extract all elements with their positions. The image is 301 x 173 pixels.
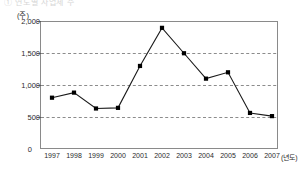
x-tick-label-2004: 2004 bbox=[198, 152, 214, 159]
x-tick-label-1998: 1998 bbox=[66, 152, 82, 159]
data-point-2006 bbox=[248, 111, 252, 115]
x-tick-label-2001: 2001 bbox=[132, 152, 148, 159]
data-point-1999 bbox=[94, 106, 98, 110]
x-tick-label-2003: 2003 bbox=[176, 152, 192, 159]
chart-figure: ① 연도별 사업체 수 (주) 2,000 1,500 1,000 500 0 … bbox=[0, 0, 301, 173]
data-point-1998 bbox=[72, 91, 76, 95]
x-tick-label-2006: 2006 bbox=[242, 152, 258, 159]
x-tick-label-2002: 2002 bbox=[154, 152, 170, 159]
data-point-2002 bbox=[160, 26, 164, 30]
data-point-2004 bbox=[204, 77, 208, 81]
data-point-2007 bbox=[270, 114, 274, 118]
data-point-2005 bbox=[226, 70, 230, 74]
data-point-1997 bbox=[50, 96, 54, 100]
data-point-markers bbox=[50, 26, 274, 118]
x-tick-label-2000: 2000 bbox=[110, 152, 126, 159]
x-tick-label-2007: 2007 bbox=[264, 152, 280, 159]
data-point-2001 bbox=[138, 64, 142, 68]
x-tick-label-1999: 1999 bbox=[88, 152, 104, 159]
data-point-2003 bbox=[182, 51, 186, 55]
gridlines bbox=[41, 54, 277, 118]
x-tick-label-2005: 2005 bbox=[220, 152, 236, 159]
plot-area bbox=[0, 0, 301, 173]
data-series-line bbox=[52, 28, 272, 116]
x-tick-label-1997: 1997 bbox=[44, 152, 60, 159]
x-axis-unit-label: (년도) bbox=[281, 152, 298, 162]
data-point-2000 bbox=[116, 106, 120, 110]
